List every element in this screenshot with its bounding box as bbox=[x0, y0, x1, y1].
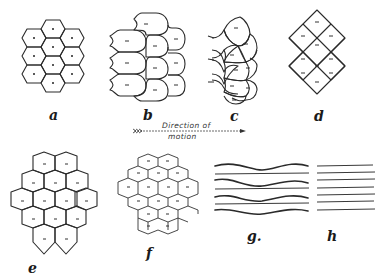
arrow-caption-line1: Direction of bbox=[162, 121, 211, 130]
panel-d-label: d bbox=[314, 108, 324, 124]
panel-c-label: c bbox=[230, 108, 239, 124]
panel-e-hexagons: e bbox=[11, 152, 97, 276]
cell-pattern-figure: a b bbox=[0, 0, 383, 280]
panel-c-scale-cells: c bbox=[208, 17, 257, 124]
direction-of-motion-arrow: Direction of motion bbox=[133, 121, 246, 141]
panel-b-label: b bbox=[143, 107, 153, 123]
panel-d-diamond-cells: d bbox=[289, 10, 345, 124]
panel-g-label: g. bbox=[247, 228, 262, 244]
panel-f-flat-hexagons: f bbox=[118, 154, 198, 261]
panel-h-straight-lines: h bbox=[317, 165, 375, 244]
panel-a-label: a bbox=[49, 107, 58, 123]
arrow-caption-line2: motion bbox=[168, 132, 197, 141]
panel-b-bullet-cells: b bbox=[110, 13, 185, 123]
panel-e-label: e bbox=[28, 260, 37, 276]
panel-h-label: h bbox=[327, 228, 337, 244]
panel-f-label: f bbox=[145, 245, 155, 261]
panel-a-hexagons: a bbox=[22, 20, 84, 123]
panel-g-wavy-lines: g. bbox=[215, 164, 309, 244]
